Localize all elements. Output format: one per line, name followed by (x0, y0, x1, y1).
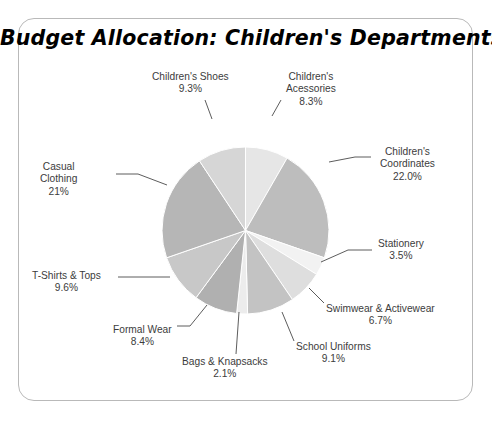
pie-slice-label: School Uniforms9.1% (296, 341, 371, 366)
pie-slice-label: Stationery3.5% (378, 238, 424, 263)
leader-line (177, 305, 207, 326)
leader-line (236, 312, 239, 354)
pie-slice-label: Children's Shoes9.3% (152, 71, 229, 96)
pie-slice-label-name: Bags & Knapsacks (182, 356, 268, 368)
pie-slice-label: Formal Wear8.4% (113, 324, 172, 349)
pie-slice-label-name: School Uniforms (296, 341, 371, 353)
pie-slice-label-name: Children'sAcessories (286, 71, 336, 96)
pie-slice-label-percent: 9.3% (152, 83, 229, 95)
pie-slice-label: Children'sAcessories8.3% (286, 71, 336, 108)
pie-slice-label-name: Formal Wear (113, 324, 172, 336)
pie-slice-label-percent: 2.1% (182, 368, 268, 380)
pie-slice-label-percent: 8.3% (286, 96, 336, 108)
pie-slice-label-percent: 22.0% (380, 171, 435, 183)
leader-line (329, 157, 371, 162)
pie-slice-label: T-Shirts & Tops9.6% (32, 270, 101, 295)
pie-slice-label-percent: 6.7% (326, 315, 435, 327)
leader-line (309, 288, 324, 303)
pie-slice-label-percent: 21% (40, 186, 77, 198)
leader-line (116, 174, 167, 185)
pie-slice-label-name: Children's Shoes (152, 71, 229, 83)
chart-screenshot: Budget Allocation: Children's Department… (0, 0, 492, 421)
pie-slice-label-percent: 8.4% (113, 336, 172, 348)
pie-slice-label-name: T-Shirts & Tops (32, 270, 101, 282)
pie-slice-label-name: Children'sCoordinates (380, 146, 435, 171)
leader-line (205, 100, 212, 119)
pie-slice-label-percent: 9.6% (32, 282, 101, 294)
pie-wedge-group (162, 147, 329, 314)
pie-slice-label-percent: 9.1% (296, 353, 371, 365)
pie-slice-label-percent: 3.5% (378, 250, 424, 262)
pie-slice-label: CasualClothing21% (40, 161, 77, 198)
leader-line (321, 250, 372, 262)
leader-line (282, 312, 294, 341)
pie-slice-label: Children'sCoordinates22.0% (380, 146, 435, 183)
pie-slice-label-name: CasualClothing (40, 161, 77, 186)
leader-line (272, 100, 281, 116)
pie-slice-label: Swimwear & Activewear6.7% (326, 303, 435, 328)
pie-slice-label-name: Swimwear & Activewear (326, 303, 435, 315)
pie-slice-label: Bags & Knapsacks2.1% (182, 356, 268, 381)
pie-slice-label-name: Stationery (378, 238, 424, 250)
